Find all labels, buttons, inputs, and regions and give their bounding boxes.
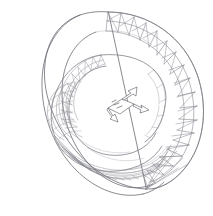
inner-torus-lower-mesh <box>55 136 172 180</box>
axis-triad-icon <box>107 87 149 122</box>
drawing-viewport: Wireframe Torus Mesh <box>0 0 213 216</box>
inner-torus-right-mesh <box>145 70 166 138</box>
outer-torus-tip-lines <box>146 145 188 189</box>
wireframe-torus-drawing <box>0 0 213 216</box>
